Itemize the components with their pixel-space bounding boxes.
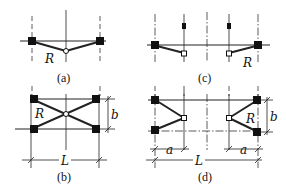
hinge-node bbox=[64, 49, 69, 54]
offset-label-left: a bbox=[166, 143, 173, 157]
brace-left bbox=[34, 42, 66, 51]
hinge-node-left bbox=[182, 51, 187, 56]
brace-left-top bbox=[157, 101, 184, 118]
length-label: L bbox=[194, 154, 203, 168]
hinge-node-right bbox=[227, 51, 232, 56]
node-top-left bbox=[151, 96, 159, 104]
node-bottom-right bbox=[92, 125, 100, 133]
brace-right bbox=[229, 46, 256, 53]
post-cap-left bbox=[182, 23, 186, 29]
panel-c: R (c) bbox=[147, 12, 270, 96]
panel-caption: (c) bbox=[198, 71, 211, 85]
offset-label-right: a bbox=[240, 143, 247, 157]
panel-b: R b L (b) bbox=[15, 94, 119, 184]
support-node-left bbox=[151, 41, 159, 49]
node-bottom-left bbox=[30, 125, 38, 133]
node-top-left bbox=[30, 95, 38, 103]
support-node-left bbox=[28, 37, 36, 45]
radius-label: R bbox=[245, 112, 255, 126]
post-cap-right bbox=[227, 23, 231, 29]
panel-caption: (d) bbox=[198, 170, 212, 184]
hinge-node bbox=[64, 112, 69, 117]
node-bottom-left bbox=[151, 126, 159, 134]
height-label: b bbox=[111, 108, 119, 122]
hinge-node-right bbox=[227, 116, 232, 121]
hinge-node-left bbox=[182, 116, 187, 121]
support-node-right bbox=[96, 37, 104, 45]
radius-label: R bbox=[242, 56, 252, 70]
support-node-right bbox=[254, 41, 262, 49]
panel-d: R b a a L (d) bbox=[146, 94, 278, 184]
panel-caption: (a) bbox=[57, 71, 70, 85]
radius-label: R bbox=[44, 52, 54, 66]
brace-right bbox=[66, 42, 98, 51]
brace-left-bottom bbox=[157, 118, 184, 129]
panel-caption: (b) bbox=[57, 170, 71, 184]
length-label: L bbox=[60, 154, 69, 168]
bracing-diagram: R (a) R b L (b) bbox=[0, 0, 286, 193]
panel-a: R (a) bbox=[20, 10, 106, 96]
height-label: b bbox=[270, 110, 278, 124]
radius-label: R bbox=[34, 107, 44, 121]
brace-left bbox=[157, 46, 184, 53]
node-top-right bbox=[92, 95, 100, 103]
